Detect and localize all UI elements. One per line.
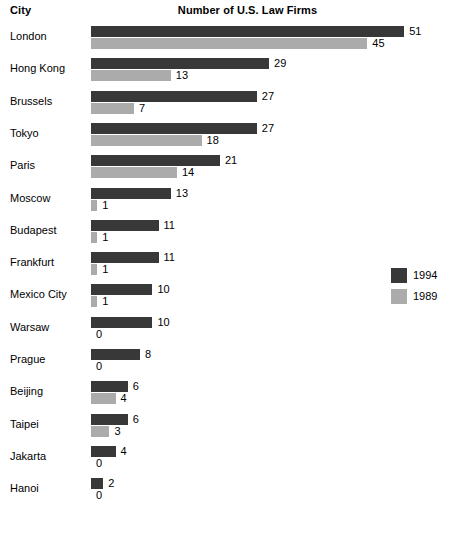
bar-rect bbox=[91, 426, 109, 437]
bar-1994: 29 bbox=[91, 58, 452, 69]
chart-row: Mexico City101 bbox=[0, 282, 452, 314]
bar-rect bbox=[91, 264, 97, 275]
bar-1994: 4 bbox=[91, 446, 452, 457]
bar-value-label: 0 bbox=[96, 328, 102, 341]
bar-value-label: 11 bbox=[164, 219, 175, 232]
bar-group: 2114 bbox=[91, 153, 452, 185]
bar-value-label: 11 bbox=[164, 251, 175, 264]
bar-rect bbox=[91, 381, 128, 392]
bar-value-label: 10 bbox=[157, 316, 169, 329]
bar-rect bbox=[91, 232, 97, 243]
category-label: Moscow bbox=[10, 192, 50, 205]
bar-1989: 0 bbox=[91, 329, 452, 340]
bar-group: 80 bbox=[91, 347, 452, 379]
bar-value-label: 0 bbox=[96, 360, 102, 373]
category-label: Paris bbox=[10, 159, 35, 172]
chart-row: Moscow131 bbox=[0, 186, 452, 218]
category-label: Tokyo bbox=[10, 127, 39, 140]
chart-title: Number of U.S. Law Firms bbox=[91, 4, 404, 16]
bar-value-label: 4 bbox=[121, 392, 127, 405]
bar-value-label: 51 bbox=[409, 25, 421, 38]
bar-rect bbox=[91, 414, 128, 425]
bar-rect bbox=[91, 123, 257, 134]
bar-1994: 11 bbox=[91, 220, 452, 231]
bar-1994: 6 bbox=[91, 414, 452, 425]
category-label: Frankfurt bbox=[10, 256, 54, 269]
bar-group: 40 bbox=[91, 444, 452, 476]
bar-1989: 1 bbox=[91, 200, 452, 211]
legend-swatch-1989 bbox=[391, 289, 407, 304]
bar-value-label: 27 bbox=[262, 122, 274, 135]
bar-value-label: 29 bbox=[274, 57, 286, 70]
chart-legend: 19941989 bbox=[391, 267, 451, 309]
bar-rect bbox=[91, 155, 220, 166]
chart-row: Hong Kong2913 bbox=[0, 56, 452, 88]
column-header-city: City bbox=[10, 4, 31, 16]
bar-group: 5145 bbox=[91, 24, 452, 56]
category-label: Warsaw bbox=[10, 321, 49, 334]
bar-value-label: 18 bbox=[207, 134, 219, 147]
category-label: Taipei bbox=[10, 418, 39, 431]
bar-value-label: 0 bbox=[96, 489, 102, 502]
bar-group: 131 bbox=[91, 186, 452, 218]
chart-row: Taipei63 bbox=[0, 412, 452, 444]
bar-rect bbox=[91, 296, 97, 307]
bar-value-label: 8 bbox=[145, 348, 151, 361]
bar-value-label: 4 bbox=[121, 445, 127, 458]
bar-rect bbox=[91, 91, 257, 102]
bar-1989: 4 bbox=[91, 393, 452, 404]
legend-item[interactable]: 1989 bbox=[391, 288, 451, 309]
chart-row: Tokyo2718 bbox=[0, 121, 452, 153]
bar-1994: 6 bbox=[91, 381, 452, 392]
category-label: Beijing bbox=[10, 385, 43, 398]
bar-rect bbox=[91, 58, 269, 69]
bar-value-label: 1 bbox=[102, 295, 108, 308]
bar-value-label: 0 bbox=[96, 457, 102, 470]
bar-1989: 7 bbox=[91, 103, 452, 114]
bar-1994: 27 bbox=[91, 91, 452, 102]
bar-rect bbox=[91, 188, 171, 199]
bar-value-label: 6 bbox=[133, 413, 139, 426]
bar-rect bbox=[91, 478, 103, 489]
bar-1989: 1 bbox=[91, 232, 452, 243]
bar-1989: 13 bbox=[91, 70, 452, 81]
bar-rect bbox=[91, 252, 159, 263]
bar-value-label: 13 bbox=[176, 187, 188, 200]
bar-1989: 14 bbox=[91, 167, 452, 178]
bar-value-label: 13 bbox=[176, 69, 188, 82]
bar-1989: 45 bbox=[91, 38, 452, 49]
bar-group: 63 bbox=[91, 412, 452, 444]
chart-row: Brussels277 bbox=[0, 89, 452, 121]
bar-rect bbox=[91, 349, 140, 360]
chart-row: Frankfurt111 bbox=[0, 250, 452, 282]
bar-1994: 11 bbox=[91, 252, 452, 263]
chart-row: Jakarta40 bbox=[0, 444, 452, 476]
bar-rect bbox=[91, 200, 97, 211]
bar-value-label: 10 bbox=[157, 283, 169, 296]
bar-1994: 27 bbox=[91, 123, 452, 134]
chart-row: London5145 bbox=[0, 24, 452, 56]
chart-row: Warsaw100 bbox=[0, 315, 452, 347]
bar-rect bbox=[91, 446, 116, 457]
bar-group: 2913 bbox=[91, 56, 452, 88]
bar-rect bbox=[91, 103, 134, 114]
bar-1989: 0 bbox=[91, 458, 452, 469]
bar-value-label: 1 bbox=[102, 231, 108, 244]
bar-rect bbox=[91, 220, 159, 231]
bar-chart: City Number of U.S. Law Firms London5145… bbox=[0, 0, 452, 541]
bar-group: 64 bbox=[91, 379, 452, 411]
bar-rect bbox=[91, 284, 152, 295]
bar-rect bbox=[91, 135, 202, 146]
category-label: Hong Kong bbox=[10, 62, 65, 75]
chart-row: Paris2114 bbox=[0, 153, 452, 185]
bar-rect bbox=[91, 70, 171, 81]
bar-1994: 8 bbox=[91, 349, 452, 360]
bar-rect bbox=[91, 26, 404, 37]
bar-1989: 0 bbox=[91, 361, 452, 372]
bar-value-label: 14 bbox=[182, 166, 194, 179]
bar-1989: 18 bbox=[91, 135, 452, 146]
chart-header: City Number of U.S. Law Firms bbox=[0, 0, 452, 22]
bar-1989: 0 bbox=[91, 490, 452, 501]
legend-item[interactable]: 1994 bbox=[391, 267, 451, 288]
bar-group: 20 bbox=[91, 476, 452, 508]
